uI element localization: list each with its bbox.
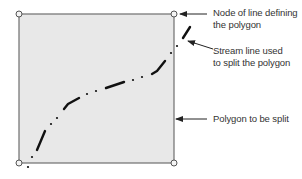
- stream-line-dot: [86, 93, 88, 95]
- label-line: the polygon: [213, 19, 298, 31]
- stream-line-dot: [170, 52, 172, 54]
- stream-line-dot: [176, 45, 178, 47]
- node-circle-icon: [16, 160, 22, 166]
- stream-line-dash: [183, 27, 190, 38]
- stream-line-dot: [31, 156, 33, 158]
- stream-line-dot: [132, 79, 134, 81]
- label-polygon-to-split: Polygon to be split: [213, 113, 289, 125]
- label-line: to split the polygon: [213, 57, 290, 69]
- stream-line-dot: [95, 90, 97, 92]
- stream-line-dot: [141, 76, 143, 78]
- stream-line-dot: [56, 117, 58, 119]
- label-stream-line: Stream line used to split the polygon: [213, 45, 290, 69]
- polygon-to-split: [19, 14, 174, 163]
- label-line: Polygon to be split: [213, 113, 289, 125]
- stream-line-dot: [50, 123, 52, 125]
- arrow-stream-line: [188, 41, 213, 49]
- label-node-of-line: Node of line defining the polygon: [213, 7, 298, 31]
- label-line: Stream line used: [213, 45, 290, 57]
- node-circle-icon: [171, 11, 177, 17]
- node-circle-icon: [171, 160, 177, 166]
- node-circle-icon: [16, 11, 22, 17]
- label-line: Node of line defining: [213, 7, 298, 19]
- stream-line-dot: [27, 166, 29, 168]
